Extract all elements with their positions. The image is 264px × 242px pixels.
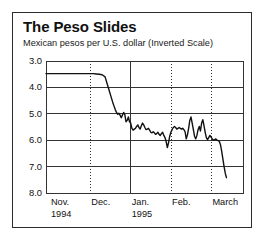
y-axis-tick-label: 5.0 — [18, 108, 42, 119]
chart-figure: The Peso Slides Mexican pesos per U.S. d… — [12, 12, 252, 228]
x-axis-year-label: 1994 — [51, 209, 71, 219]
data-line — [46, 74, 226, 178]
x-axis-tick-label: Nov. — [51, 197, 69, 207]
y-axis-tick-label: 7.0 — [18, 161, 42, 172]
x-axis-year-label: 1995 — [132, 209, 152, 219]
plot-area: 3.04.05.06.07.08.0Nov.1994Dec.Jan.1995Fe… — [13, 13, 253, 229]
y-axis-tick-label: 3.0 — [18, 55, 42, 66]
y-axis-tick-label: 8.0 — [18, 187, 42, 198]
x-axis-tick-label: Feb. — [172, 197, 190, 207]
y-axis-tick-label: 4.0 — [18, 81, 42, 92]
x-axis-tick-label: March — [212, 197, 238, 207]
y-axis-tick-label: 6.0 — [18, 134, 42, 145]
x-axis-tick-label: Jan. — [132, 197, 149, 207]
x-axis-tick-label: Dec. — [91, 197, 110, 207]
